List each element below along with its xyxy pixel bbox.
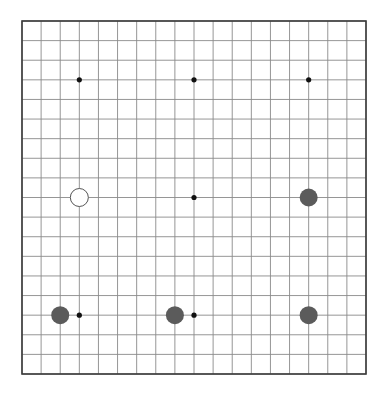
- star-point: [191, 77, 196, 82]
- star-point: [77, 313, 82, 318]
- star-point: [191, 195, 196, 200]
- black-stone[interactable]: [166, 306, 184, 324]
- star-point: [306, 77, 311, 82]
- go-board[interactable]: [0, 0, 385, 393]
- star-point: [77, 77, 82, 82]
- star-point: [191, 313, 196, 318]
- black-stone[interactable]: [51, 306, 69, 324]
- black-stone[interactable]: [300, 306, 318, 324]
- white-stone[interactable]: [70, 189, 88, 207]
- black-stone[interactable]: [300, 189, 318, 207]
